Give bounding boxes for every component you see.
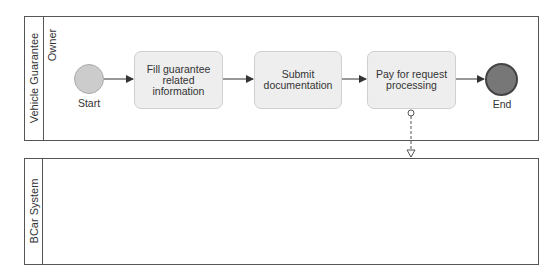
message-flow-origin-icon [408,110,414,116]
message-flow-pay-to-bcar[interactable] [408,110,414,157]
flow-connectors [0,0,559,280]
